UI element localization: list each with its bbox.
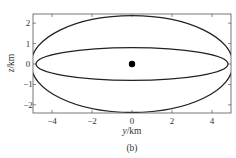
plot-markers (129, 61, 135, 67)
y-tick-label: −1 (23, 79, 33, 89)
y-axis-label-unit: /km (6, 53, 16, 68)
center-point-marker (129, 61, 135, 67)
x-tick-label: 2 (170, 116, 175, 126)
x-tick-label: −4 (47, 116, 57, 126)
x-axis-label: y/km (122, 126, 143, 136)
y-tick-label: 1 (26, 39, 31, 49)
y-tick-label: 0 (26, 59, 31, 69)
x-tick-label: 4 (210, 116, 215, 126)
x-tick-label: −2 (87, 116, 97, 126)
x-axis-ticks: −4−2024 (47, 14, 215, 126)
x-tick-label: 0 (130, 116, 135, 126)
figure-caption: (b) (126, 143, 137, 154)
y-tick-label: 2 (26, 18, 31, 28)
y-axis-ticks: −2−1012 (23, 18, 231, 110)
x-axis-label-unit: /km (127, 126, 142, 136)
y-axis-label: z/km (6, 53, 16, 73)
y-tick-label: −2 (23, 100, 33, 110)
figure: −4−2024 −2−1012 y/km z/km (b) (0, 0, 236, 158)
